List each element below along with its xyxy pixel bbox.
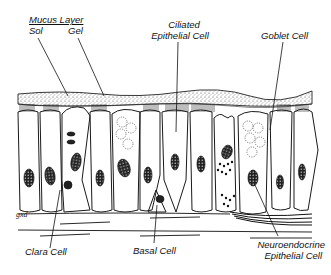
clara-cell-label: Clara Cell: [25, 246, 67, 257]
neuroendocrine-cell-label-line2: Epithelial Cell: [245, 250, 322, 261]
goblet-cell-label: Goblet Cell: [261, 30, 308, 41]
gel-label: Gel: [68, 25, 83, 36]
basal-cell-label: Basal Cell: [133, 245, 176, 256]
mucus-layer-label: Mucus Layer: [29, 14, 83, 25]
epithelial-cells: [18, 107, 318, 214]
artist-signature: gxd: [16, 210, 28, 219]
ciliated-cell-label-line1: Ciliated: [164, 19, 204, 30]
nuclei: [24, 132, 306, 203]
basement-membrane: [18, 213, 312, 238]
neuroendocrine-granules: [217, 161, 235, 207]
neuroendocrine-cell-label-line1: Neuroendocrine: [245, 239, 325, 250]
ciliated-cell-label-line2: Epithelial Cell: [145, 30, 215, 41]
nerve-fibers: [230, 212, 312, 225]
epithelium-illustration: [0, 0, 331, 275]
mucus-layer: [18, 90, 312, 108]
sol-label: Sol: [29, 25, 43, 36]
